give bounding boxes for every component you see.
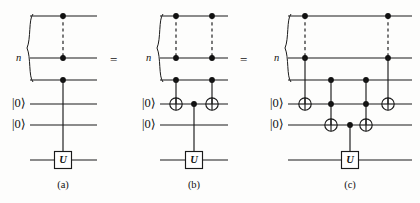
register-size-label-c: n: [274, 53, 279, 64]
ancilla-ket-label-a2: |0⟩: [12, 118, 26, 131]
control-dot-icon-a-2[interactable]: [60, 55, 66, 61]
panel-caption-a: (a): [57, 180, 69, 191]
register-brace-b: [157, 14, 163, 82]
panel-caption-c: (c): [344, 180, 356, 191]
register-size-label-a: n: [16, 53, 21, 64]
ancilla-ket-label-c2: |0⟩: [270, 118, 284, 131]
ancilla-ket-label-b2: |0⟩: [142, 118, 156, 131]
control-dot-icon-b-7[interactable]: [209, 13, 215, 19]
control-dot-icon-b-8[interactable]: [209, 55, 215, 61]
circuit-canvas: [0, 0, 420, 203]
ancilla-ket-label-b1: |0⟩: [142, 97, 156, 110]
control-dot-icon-b-3[interactable]: [173, 55, 179, 61]
ancilla-ket-label-c1: |0⟩: [270, 97, 284, 110]
control-dot-icon-c-2[interactable]: [302, 13, 308, 19]
panel-caption-b: (b): [188, 180, 200, 191]
ancilla-ket-label-a1: |0⟩: [12, 97, 26, 110]
equality-symbol-1: =: [110, 53, 117, 66]
u-gate-label-c: U: [342, 155, 359, 166]
control-dot-icon-b-2[interactable]: [173, 13, 179, 19]
register-brace-a: [27, 14, 33, 82]
equality-symbol-2: =: [240, 53, 247, 66]
u-gate-label-a: U: [55, 155, 72, 166]
register-size-label-b: n: [146, 53, 151, 64]
quantum-circuit-figure: n n n |0⟩ |0⟩ |0⟩ |0⟩ |0⟩ |0⟩ = = (a) (b…: [0, 0, 420, 203]
control-dot-icon-a-1[interactable]: [60, 13, 66, 19]
u-gate-label-b: U: [186, 155, 203, 166]
register-brace-c: [285, 14, 291, 82]
control-dot-icon-c-6[interactable]: [385, 13, 391, 19]
